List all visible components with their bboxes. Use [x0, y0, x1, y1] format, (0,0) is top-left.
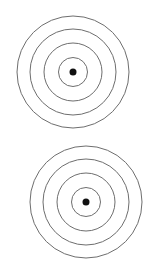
- center-dot: [70, 69, 77, 76]
- center-dot: [83, 199, 90, 206]
- top-target: [17, 16, 129, 128]
- bottom-target: [30, 146, 142, 258]
- concentric-targets-diagram: [0, 0, 153, 275]
